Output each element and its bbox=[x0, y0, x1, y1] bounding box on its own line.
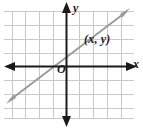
coordinate-plane-svg bbox=[0, 0, 143, 128]
point-label: (x, y) bbox=[84, 33, 111, 45]
y-axis-label: y bbox=[73, 2, 78, 14]
axes bbox=[10, 8, 131, 121]
grid-lines bbox=[4, 11, 134, 119]
x-axis-label: x bbox=[133, 58, 139, 70]
coordinate-plane-figure: y x O (x, y) bbox=[0, 0, 143, 128]
plotted-line bbox=[6, 8, 130, 104]
y-axis-arrow-down bbox=[62, 116, 71, 127]
y-axis-arrow-up bbox=[62, 2, 71, 13]
line-arrowhead-start bbox=[6, 95, 16, 105]
x-axis-arrow-left bbox=[4, 62, 15, 71]
horizontal-grid-lines bbox=[4, 12, 134, 119]
origin-label: O bbox=[57, 63, 66, 75]
